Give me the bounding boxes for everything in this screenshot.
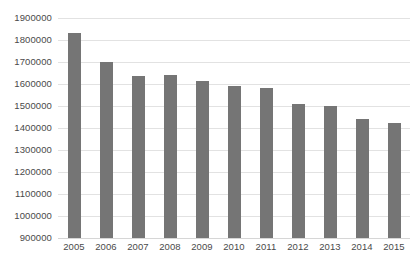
bar (68, 33, 81, 238)
y-tick-label: 1200000 (0, 167, 52, 177)
plot-area (58, 18, 410, 238)
bar-chart: 9000001000000110000012000001300000140000… (0, 0, 417, 277)
bar-series (58, 18, 410, 238)
gridline (58, 238, 410, 239)
bar (324, 106, 337, 238)
bar (132, 76, 145, 238)
y-tick-label: 1400000 (0, 123, 52, 133)
bar (100, 62, 113, 238)
y-tick-label: 1300000 (0, 145, 52, 155)
bar (260, 88, 273, 238)
bar (164, 75, 177, 238)
y-tick-label: 1700000 (0, 57, 52, 67)
bar (292, 104, 305, 238)
bar (196, 81, 209, 238)
bar (356, 119, 369, 238)
y-axis: 9000001000000110000012000001300000140000… (0, 18, 52, 238)
x-axis: 2005200620072008200920102011201220132014… (58, 242, 410, 262)
y-tick-label: 1100000 (0, 189, 52, 199)
bar (388, 123, 401, 239)
bar (228, 86, 241, 238)
y-tick-label: 1800000 (0, 35, 52, 45)
x-tick-label: 2015 (374, 242, 414, 252)
y-tick-label: 1500000 (0, 101, 52, 111)
y-tick-label: 1000000 (0, 211, 52, 221)
y-tick-label: 1900000 (0, 13, 52, 23)
y-tick-label: 900000 (0, 233, 52, 243)
y-tick-label: 1600000 (0, 79, 52, 89)
